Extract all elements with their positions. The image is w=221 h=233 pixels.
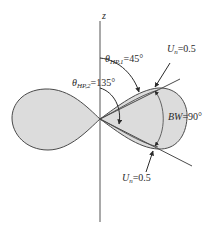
left-lobe [12, 89, 100, 150]
un-bottom-label: Un=0.5 [122, 172, 151, 185]
z-axis-label: z [101, 10, 106, 21]
un-bottom-pointer [146, 151, 153, 172]
beamwidth-label: BW=90° [168, 111, 202, 122]
theta-hp1-label: θHP,1=45° [105, 53, 143, 66]
radiation-pattern-diagram: z θHP,1=45° θHP,2=135° Un=0.5 BW=90° Un=… [0, 0, 221, 233]
un-top-pointer [155, 63, 170, 87]
un-top-label: Un=0.5 [167, 43, 196, 56]
theta-hp2-label: θHP,2=135° [72, 77, 115, 90]
